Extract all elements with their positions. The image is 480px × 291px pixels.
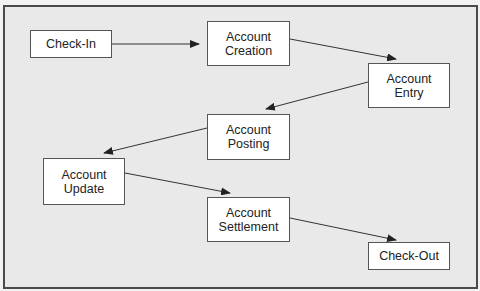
arrow-entry-to-posting bbox=[266, 82, 368, 109]
node-account-update: Account Update bbox=[43, 158, 125, 205]
node-check-in: Check-In bbox=[30, 30, 112, 58]
node-label: Check-Out bbox=[379, 249, 439, 263]
node-label: Account Entry bbox=[386, 72, 431, 100]
node-label: Check-In bbox=[46, 37, 96, 51]
node-label: Account Posting bbox=[226, 123, 271, 151]
node-label: Account Update bbox=[61, 168, 106, 196]
node-account-settlement: Account Settlement bbox=[207, 197, 290, 242]
arrow-creation-to-entry bbox=[290, 39, 396, 59]
node-account-posting: Account Posting bbox=[207, 114, 290, 160]
arrow-update-to-settlement bbox=[125, 173, 230, 193]
node-label: Account Settlement bbox=[219, 206, 279, 234]
node-account-creation: Account Creation bbox=[207, 21, 290, 66]
node-account-entry: Account Entry bbox=[368, 63, 450, 108]
arrow-settlement-to-checkout bbox=[290, 218, 396, 240]
arrow-posting-to-update bbox=[104, 128, 207, 153]
node-label: Account Creation bbox=[225, 30, 272, 58]
node-check-out: Check-Out bbox=[368, 242, 450, 270]
